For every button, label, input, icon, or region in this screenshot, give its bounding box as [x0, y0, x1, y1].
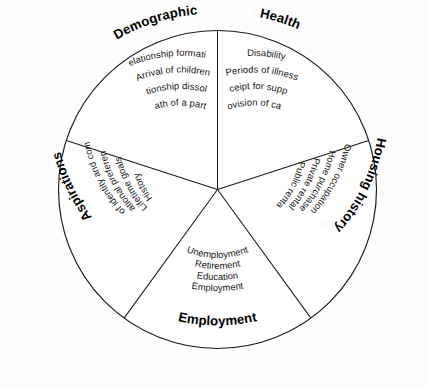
wheel-diagram: Relationship formation Arrival of childr… [0, 0, 427, 388]
life-course-wheel-figure: Relationship formation Arrival of childr… [0, 0, 427, 388]
sector-category-label-health: Health [259, 6, 303, 33]
